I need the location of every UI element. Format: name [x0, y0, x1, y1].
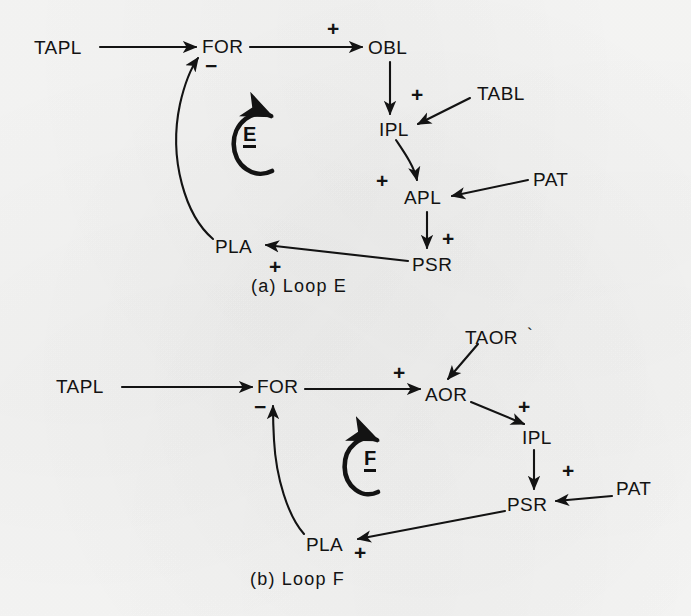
sign-psr-to-pla: + [269, 256, 281, 277]
sign-pla-to-for-b: − [254, 396, 266, 417]
node-taor-b: TAOR [465, 328, 518, 347]
node-pat-a: PAT [533, 170, 568, 189]
node-tapl-b: TAPL [56, 377, 104, 396]
edge-pat-to-psr-b [556, 496, 612, 501]
sign-aor-to-ipl-b: + [518, 396, 530, 417]
sign-ipl-to-psr-b: + [562, 460, 574, 481]
caption-panel-b: (b) Loop F [250, 570, 345, 588]
caption-panel-a: (a) Loop E [251, 277, 347, 295]
sign-tabl-to-ipl: + [411, 84, 423, 105]
sign-for-to-aor-b: + [393, 362, 405, 383]
sign-apl-to-psr: + [442, 228, 454, 249]
node-ipl-a: IPL [379, 120, 409, 139]
node-pla-a: PLA [215, 237, 252, 256]
node-for-b: FOR [257, 377, 298, 396]
node-tapl-a: TAPL [34, 38, 82, 57]
node-tabl-a: TABL [477, 84, 525, 103]
edge-psr-to-pla-b [358, 511, 505, 539]
loop-marker-f: F [364, 448, 376, 472]
taor-tick-mark: ` [527, 326, 533, 343]
edge-pla-to-for-b [273, 406, 304, 534]
edge-aor-to-ipl-b [471, 402, 524, 424]
edge-ipl-to-apl [396, 140, 417, 180]
node-ipl-b: IPL [522, 428, 552, 447]
node-psr-a: PSR [412, 255, 452, 274]
sign-for-to-obl: + [327, 18, 339, 39]
figure-canvas: TAPL FOR OBL TABL IPL PAT APL PLA PSR + … [0, 0, 691, 616]
edge-psr-to-pla [266, 245, 408, 261]
node-aor-b: AOR [425, 385, 467, 404]
node-pat-b: PAT [616, 479, 651, 498]
sign-pla-to-for: − [205, 55, 217, 76]
edge-taor-to-aor-b [448, 344, 478, 379]
edge-pat-to-apl [452, 180, 528, 196]
sign-ipl-to-apl: + [376, 170, 388, 191]
node-obl-a: OBL [368, 38, 407, 57]
loop-marker-e: E [243, 124, 256, 148]
sign-psr-to-pla-b: + [354, 542, 366, 563]
edge-tabl-to-ipl [418, 98, 470, 124]
edge-pla-to-for [176, 58, 213, 239]
node-psr-b: PSR [507, 495, 547, 514]
node-pla-b: PLA [306, 535, 343, 554]
diagram-arrows-layer [0, 0, 691, 616]
node-apl-a: APL [404, 188, 441, 207]
